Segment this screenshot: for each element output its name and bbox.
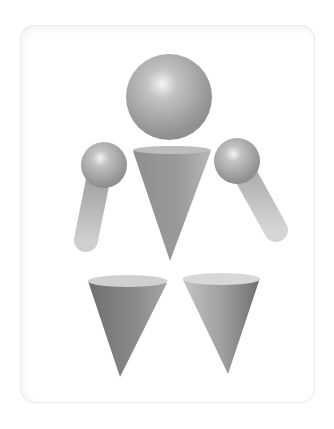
right-leg-cone [183,273,261,374]
left-leg-cone [88,275,168,377]
head-sphere [126,54,212,140]
body-cone [133,146,211,261]
left-shoulder-sphere [81,142,127,188]
right-shoulder-sphere [214,138,260,184]
primitive-figure [0,0,334,429]
